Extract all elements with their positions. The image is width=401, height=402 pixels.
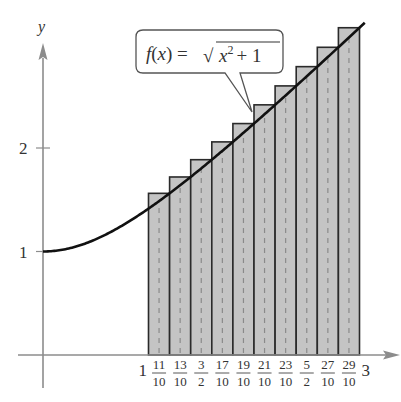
x-tick-fraction: 1910: [236, 357, 250, 389]
function-callout: f(x) = √ x2+ 1: [136, 30, 283, 112]
x-tick-fraction: 1110: [152, 357, 166, 389]
fraction-numerator: 5: [304, 357, 311, 372]
radicand: x2+ 1: [218, 43, 261, 66]
fraction-denominator: 2: [304, 374, 311, 389]
x-tick-fraction: 1310: [173, 357, 187, 389]
riemann-bar: [233, 124, 254, 355]
x-tick-fraction: 2310: [279, 357, 293, 389]
x-tick-label: 3: [362, 361, 371, 380]
x-ticks: 11110131032171019102110231052271029103: [139, 357, 371, 389]
x-tick-fraction: 2910: [342, 357, 356, 389]
fraction-denominator: 2: [198, 374, 205, 389]
x-tick-fraction: 2710: [321, 357, 335, 389]
fraction-denominator: 10: [153, 374, 166, 389]
riemann-bar: [317, 47, 338, 355]
riemann-sum-chart: y 12 11110131032171019102110231052271029…: [0, 0, 401, 402]
x-tick-fraction: 52: [300, 357, 314, 389]
riemann-bar: [191, 160, 212, 355]
fraction-numerator: 3: [198, 357, 205, 372]
fraction-denominator: 10: [237, 374, 250, 389]
riemann-bar: [254, 105, 275, 355]
y-tick-label: 2: [19, 139, 28, 158]
fraction-denominator: 10: [321, 374, 334, 389]
y-axis-label: y: [36, 18, 46, 36]
fraction-numerator: 17: [216, 357, 230, 372]
x-tick-label: 1: [139, 361, 148, 380]
riemann-bar: [275, 86, 296, 355]
fraction-numerator: 27: [321, 357, 335, 372]
x-tick-fraction: 1710: [215, 357, 229, 389]
x-tick-fraction: 32: [194, 357, 208, 389]
riemann-bar: [338, 28, 359, 355]
x-tick-fraction: 2110: [258, 357, 272, 389]
y-tick-label: 1: [19, 243, 28, 262]
fraction-denominator: 10: [279, 374, 292, 389]
callout-label: f(x) =: [146, 43, 188, 65]
fraction-numerator: 19: [237, 357, 250, 372]
fraction-denominator: 10: [174, 374, 187, 389]
riemann-bar: [212, 142, 233, 355]
y-ticks: 12: [19, 139, 50, 262]
riemann-bar: [170, 177, 191, 355]
fraction-denominator: 10: [216, 374, 229, 389]
fraction-denominator: 10: [342, 374, 355, 389]
fraction-numerator: 29: [342, 357, 355, 372]
radical-sign: √: [203, 45, 214, 66]
fraction-numerator: 23: [279, 357, 292, 372]
fraction-numerator: 13: [174, 357, 187, 372]
bars-group: [149, 28, 360, 355]
riemann-bar: [149, 193, 170, 355]
fraction-denominator: 10: [258, 374, 271, 389]
fraction-numerator: 21: [258, 357, 271, 372]
riemann-bar: [296, 67, 317, 355]
y-axis-arrow-icon: [39, 43, 48, 60]
fraction-numerator: 11: [153, 357, 166, 372]
